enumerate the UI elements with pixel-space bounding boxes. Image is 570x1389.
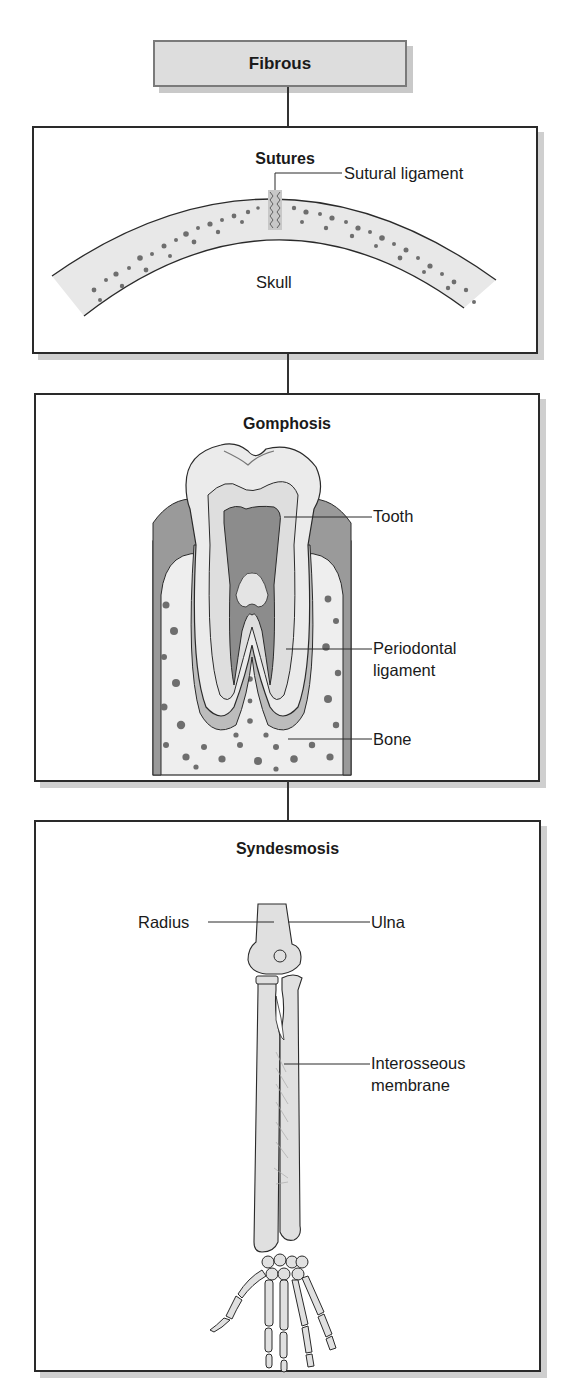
forearm-illustration <box>36 822 543 1374</box>
connector-sutures-gomphosis <box>287 354 289 394</box>
panel-syndesmosis: Syndesmosis <box>34 820 541 1372</box>
connector-gomphosis-syndesmosis <box>287 781 289 821</box>
skull-suture-illustration <box>34 128 540 356</box>
root-node-label: Fibrous <box>249 54 311 74</box>
panel-gomphosis: Gomphosis <box>34 393 540 782</box>
label-bone: Bone <box>373 728 412 750</box>
label-sutural-ligament: Sutural ligament <box>344 162 463 184</box>
label-tooth: Tooth <box>373 505 413 527</box>
tooth-socket-illustration <box>36 395 542 784</box>
label-periodontal-ligament-1: Periodontal <box>373 637 456 659</box>
root-node-fibrous: Fibrous <box>153 40 407 87</box>
label-skull: Skull <box>256 271 292 293</box>
label-radius: Radius <box>138 911 189 933</box>
panel-sutures: Sutures Sutural <box>32 126 538 354</box>
label-periodontal-ligament-2: ligament <box>373 659 435 681</box>
label-interosseous-membrane-1: Interosseous <box>371 1052 465 1074</box>
label-interosseous-membrane-2: membrane <box>371 1074 450 1096</box>
label-ulna: Ulna <box>371 911 405 933</box>
connector-root-sutures <box>287 87 289 128</box>
